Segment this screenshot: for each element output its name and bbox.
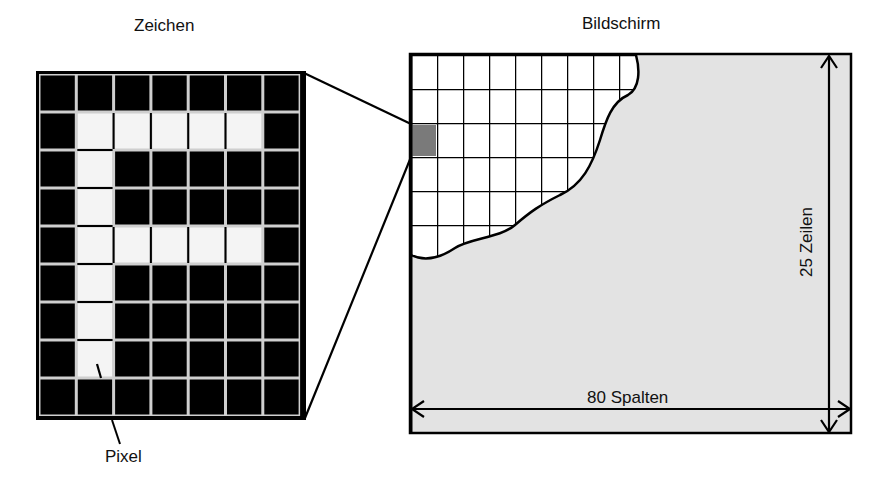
character-matrix bbox=[37, 72, 305, 419]
unlit-pixel bbox=[41, 190, 75, 225]
pixel-leader-outer bbox=[112, 420, 120, 444]
lit-pixel bbox=[78, 342, 112, 377]
unlit-pixel bbox=[190, 304, 224, 339]
screen bbox=[410, 54, 851, 433]
lit-pixel bbox=[190, 114, 224, 149]
unlit-pixel bbox=[264, 342, 298, 377]
unlit-pixel bbox=[78, 76, 112, 111]
unlit-pixel bbox=[227, 76, 261, 111]
unlit-pixel bbox=[152, 380, 186, 415]
lit-pixel bbox=[78, 228, 112, 263]
unlit-pixel bbox=[190, 380, 224, 415]
lit-pixel bbox=[152, 228, 186, 263]
unlit-pixel bbox=[190, 152, 224, 187]
unlit-pixel bbox=[41, 76, 75, 111]
highlighted-character-cell bbox=[412, 125, 436, 156]
unlit-pixel bbox=[115, 190, 149, 225]
lit-pixel bbox=[115, 228, 149, 263]
columns-label: 80 Spalten bbox=[587, 388, 668, 408]
unlit-pixel bbox=[227, 266, 261, 301]
unlit-pixel bbox=[41, 380, 75, 415]
unlit-pixel bbox=[227, 380, 261, 415]
unlit-pixel bbox=[152, 266, 186, 301]
unlit-pixel bbox=[152, 342, 186, 377]
unlit-pixel bbox=[227, 304, 261, 339]
unlit-pixel bbox=[264, 304, 298, 339]
unlit-pixel bbox=[152, 304, 186, 339]
unlit-pixel bbox=[115, 76, 149, 111]
unlit-pixel bbox=[115, 266, 149, 301]
unlit-pixel bbox=[190, 190, 224, 225]
lit-pixel bbox=[227, 114, 261, 149]
unlit-pixel bbox=[264, 266, 298, 301]
character-pixels bbox=[39, 74, 300, 416]
lit-pixel bbox=[152, 114, 186, 149]
unlit-pixel bbox=[227, 342, 261, 377]
lit-pixel bbox=[78, 114, 112, 149]
unlit-pixel bbox=[152, 76, 186, 111]
unlit-pixel bbox=[115, 380, 149, 415]
unlit-pixel bbox=[190, 266, 224, 301]
unlit-pixel bbox=[115, 152, 149, 187]
lit-pixel bbox=[115, 114, 149, 149]
pixel-label: Pixel bbox=[105, 447, 142, 467]
lit-pixel bbox=[78, 266, 112, 301]
unlit-pixel bbox=[264, 190, 298, 225]
lit-pixel bbox=[78, 152, 112, 187]
unlit-pixel bbox=[227, 190, 261, 225]
unlit-pixel bbox=[41, 266, 75, 301]
unlit-pixel bbox=[152, 152, 186, 187]
unlit-pixel bbox=[115, 342, 149, 377]
lit-pixel bbox=[227, 228, 261, 263]
unlit-pixel bbox=[78, 380, 112, 415]
character-to-screen-diagram bbox=[0, 0, 890, 490]
unlit-pixel bbox=[41, 304, 75, 339]
unlit-pixel bbox=[190, 342, 224, 377]
unlit-pixel bbox=[264, 76, 298, 111]
unlit-pixel bbox=[41, 114, 75, 149]
character-title: Zeichen bbox=[134, 16, 194, 36]
unlit-pixel bbox=[41, 342, 75, 377]
screen-title: Bildschirm bbox=[582, 14, 660, 34]
unlit-pixel bbox=[264, 152, 298, 187]
unlit-pixel bbox=[152, 190, 186, 225]
projection-line-bottom bbox=[305, 157, 411, 418]
lit-pixel bbox=[78, 190, 112, 225]
unlit-pixel bbox=[264, 380, 298, 415]
unlit-pixel bbox=[190, 76, 224, 111]
unlit-pixel bbox=[227, 152, 261, 187]
lit-pixel bbox=[78, 304, 112, 339]
unlit-pixel bbox=[264, 228, 298, 263]
rows-label: 25 Zeilen bbox=[797, 207, 817, 277]
lit-pixel bbox=[190, 228, 224, 263]
unlit-pixel bbox=[41, 152, 75, 187]
projection-line-top bbox=[304, 73, 411, 124]
unlit-pixel bbox=[264, 114, 298, 149]
unlit-pixel bbox=[115, 304, 149, 339]
unlit-pixel bbox=[41, 228, 75, 263]
